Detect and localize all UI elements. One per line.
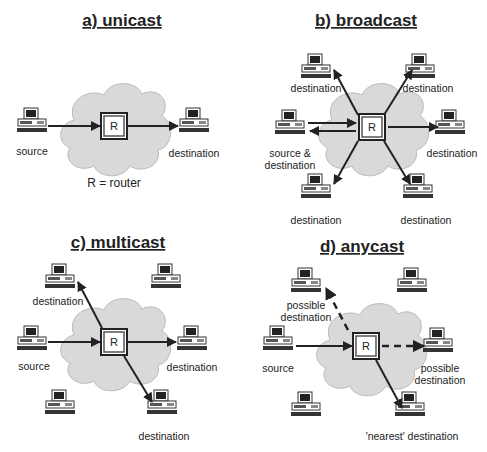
router-label: R	[110, 120, 118, 132]
casting-diagram: a) unicast R source destination R = rout…	[0, 0, 487, 452]
panel-anycast: d) anycast R possible destination source…	[262, 237, 465, 442]
panel-title: b) broadcast	[315, 11, 417, 30]
destination-label: destination	[169, 147, 220, 159]
panel-title: d) anycast	[320, 237, 404, 256]
destination-label: destination	[167, 361, 218, 373]
source-destination-label-1: source &	[269, 147, 310, 159]
router-label: R	[362, 340, 370, 352]
computer-icon	[179, 108, 209, 132]
possible-destination-label-1: possible	[421, 362, 460, 374]
computer-icon	[45, 390, 75, 414]
computer-icon	[17, 108, 47, 132]
computer-icon	[17, 326, 47, 350]
computer-icon	[301, 54, 331, 78]
router-label: R	[368, 121, 376, 133]
source-label: source	[18, 360, 50, 372]
computer-icon	[275, 110, 305, 134]
panel-broadcast: b) broadcast R destination destination s…	[265, 11, 478, 226]
panel-title: c) multicast	[71, 233, 166, 252]
destination-label: destination	[291, 82, 342, 94]
source-label: source	[16, 145, 48, 157]
computer-icon	[45, 264, 75, 288]
nearest-destination-label: 'nearest' destination	[366, 430, 459, 442]
computer-icon	[177, 326, 207, 350]
computer-icon	[435, 110, 465, 134]
computer-icon	[423, 328, 453, 352]
router-label: R	[110, 336, 118, 348]
destination-label: destination	[403, 82, 454, 94]
destination-label: destination	[139, 430, 190, 442]
source-destination-label-2: destination	[265, 159, 316, 171]
router-legend: R = router	[87, 176, 141, 190]
possible-destination-label-2: destination	[415, 374, 466, 386]
panel-multicast: c) multicast R destination source destin…	[17, 233, 218, 442]
computer-icon	[403, 174, 433, 198]
possible-destination-label-2: destination	[281, 311, 332, 323]
possible-destination-label-1: possible	[287, 299, 326, 311]
computer-icon	[301, 174, 331, 198]
panel-unicast: a) unicast R source destination R = rout…	[16, 11, 219, 190]
panel-title: a) unicast	[82, 11, 162, 30]
computer-icon	[397, 268, 427, 292]
source-label: source	[262, 362, 294, 374]
computer-icon	[263, 326, 293, 350]
computer-icon	[151, 264, 181, 288]
destination-label: destination	[427, 147, 478, 159]
destination-label: destination	[401, 214, 452, 226]
destination-label: destination	[33, 295, 84, 307]
destination-label: destination	[291, 214, 342, 226]
computer-icon	[291, 268, 321, 292]
computer-icon	[291, 392, 321, 416]
